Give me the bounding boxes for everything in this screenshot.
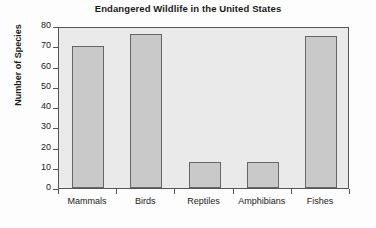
x-axis-tick-mark xyxy=(58,189,59,194)
x-axis-tick-label: Amphibians xyxy=(238,196,285,206)
bar xyxy=(247,162,279,188)
x-axis-tick-mark xyxy=(349,189,350,194)
bar xyxy=(305,36,337,188)
y-axis-title: Number of Species xyxy=(13,5,23,125)
plot-area xyxy=(58,27,349,189)
y-axis-tick-label: 80 xyxy=(41,20,51,30)
x-axis-tick-mark xyxy=(116,189,117,194)
y-axis-tick-label: 60 xyxy=(41,61,51,71)
y-axis-tick-label: 20 xyxy=(41,142,51,152)
y-axis-tick-label: 40 xyxy=(41,101,51,111)
y-axis-tick-label: 10 xyxy=(41,162,51,172)
x-axis-tick-mark xyxy=(174,189,175,194)
bar-chart-figure: Endangered Wildlife in the United States… xyxy=(0,0,376,228)
y-axis-tick-label: 30 xyxy=(41,121,51,131)
y-axis-tick-label: 70 xyxy=(41,40,51,50)
x-axis-tick-label: Birds xyxy=(135,196,156,206)
y-axis-tick-label: 50 xyxy=(41,81,51,91)
x-axis-tick-label: Reptiles xyxy=(187,196,220,206)
bar xyxy=(72,46,104,188)
x-axis-tick-label: Mammals xyxy=(68,196,107,206)
x-axis-tick-mark xyxy=(233,189,234,194)
bar xyxy=(189,162,221,188)
bar xyxy=(130,34,162,188)
bars-layer xyxy=(59,28,348,188)
chart-title: Endangered Wildlife in the United States xyxy=(0,3,376,14)
x-axis-tick-label: Fishes xyxy=(307,196,334,206)
x-axis-tick-mark xyxy=(291,189,292,194)
y-axis-tick-label: 0 xyxy=(46,182,51,192)
